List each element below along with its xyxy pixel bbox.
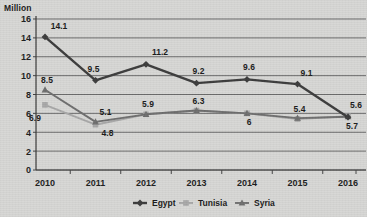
data-point-label: 5.1 (100, 107, 112, 117)
x-axis-tick-label: 2014 (237, 178, 257, 188)
y-axis-tick-label: 8 (26, 90, 31, 100)
data-point-label: 9.6 (243, 62, 255, 72)
legend-label: Syria (254, 198, 275, 208)
data-point-marker (244, 76, 251, 83)
y-axis-tick-label: 12 (21, 52, 31, 62)
data-point-label: 5.9 (142, 99, 154, 109)
x-axis-tick-label: 2016 (338, 178, 358, 188)
y-axis-tick-label: 16 (21, 14, 31, 24)
legend-item-egypt[interactable]: Egypt (133, 198, 176, 208)
x-axis-tick-label: 2013 (186, 178, 206, 188)
data-point-label: 6.3 (193, 96, 205, 106)
data-point-marker (42, 86, 49, 92)
data-point-marker (193, 80, 200, 87)
data-point-label: 8.5 (41, 75, 53, 85)
x-axis-tick-label: 2011 (86, 178, 106, 188)
chart-canvas: 0246810121416201020112012201320142015201… (0, 0, 367, 217)
data-point-label: 9.1 (301, 68, 313, 78)
data-point-marker (143, 61, 150, 68)
x-axis-tick-label: 2015 (287, 178, 307, 188)
x-axis-tick-label: 2010 (35, 178, 55, 188)
data-point-label: 9.5 (88, 64, 100, 74)
data-point-label: 11.2 (152, 47, 168, 57)
y-axis-tick-label: 4 (26, 128, 31, 138)
data-point-label: 5.6 (350, 100, 362, 110)
data-point-marker (137, 200, 144, 207)
legend-item-tunisia[interactable]: Tunisia (179, 198, 227, 208)
y-axis-tick-label: 2 (26, 147, 31, 157)
data-point-label: 6.9 (29, 113, 41, 123)
data-point-label: 4.8 (102, 128, 114, 138)
data-point-label: 14.1 (51, 21, 68, 31)
legend-item-syria[interactable]: Syria (235, 198, 275, 208)
data-point-label: 5.4 (294, 104, 306, 114)
data-point-marker (183, 200, 189, 206)
data-point-marker (42, 102, 48, 108)
data-point-label: 5.7 (346, 121, 358, 131)
data-point-label: 9.2 (193, 66, 205, 76)
y-axis-tick-label: 0 (26, 165, 31, 175)
line-chart: Million 02468101214162010201120122013201… (0, 0, 367, 217)
legend-label: Egypt (152, 198, 176, 208)
x-axis-tick-label: 2012 (136, 178, 156, 188)
legend-label: Tunisia (198, 198, 227, 208)
y-axis-tick-label: 14 (21, 33, 31, 43)
y-axis-tick-label: 10 (21, 71, 31, 81)
data-point-label: 6 (247, 117, 252, 127)
